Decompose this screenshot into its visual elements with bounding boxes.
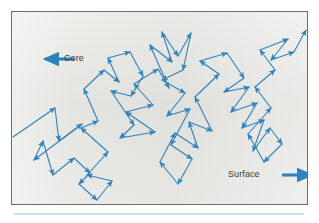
random-walk-diagram — [12, 12, 307, 204]
walk-segment — [195, 74, 219, 97]
walk-segment — [160, 133, 175, 162]
core-label: Core — [64, 53, 84, 64]
walk-segment — [126, 105, 153, 112]
walk-segment — [162, 32, 178, 56]
walk-segment — [13, 108, 55, 137]
walk-segment — [162, 80, 185, 93]
walk-segment — [55, 108, 59, 141]
walk-segment — [200, 53, 227, 61]
walk-segment — [255, 70, 275, 87]
walk-segment — [270, 128, 282, 144]
walk-segment — [162, 70, 183, 80]
walk-segment — [160, 162, 178, 184]
walk-segment — [134, 84, 153, 105]
walk-segment — [84, 70, 104, 89]
walk-segment — [227, 53, 244, 78]
walk-segment — [264, 144, 282, 162]
walk-segment — [134, 69, 158, 84]
walk-segment — [53, 158, 74, 175]
walk-segment — [242, 120, 264, 128]
bottom-divider-rule — [14, 213, 304, 215]
walk-segment — [97, 181, 112, 200]
walk-segment — [183, 33, 191, 70]
walk-segment — [231, 87, 249, 112]
walk-segment — [242, 103, 257, 128]
figure-root: Core Surface — [0, 0, 319, 223]
walk-segment — [294, 30, 306, 52]
walk-segment — [175, 133, 198, 148]
walk-segment — [87, 175, 112, 181]
walk-segment — [178, 159, 192, 184]
walk-segment — [87, 152, 108, 175]
walk-segment — [74, 158, 90, 173]
walk-segment — [108, 52, 130, 58]
walk-segment — [171, 145, 192, 159]
surface-label: Surface — [228, 169, 260, 180]
walk-segment — [84, 89, 98, 121]
walk-path-group — [13, 30, 306, 200]
walk-segment — [79, 184, 97, 200]
walk-segment — [150, 45, 169, 88]
walk-segment — [43, 141, 53, 175]
figure-panel: Core Surface — [11, 11, 308, 205]
walk-segment — [189, 122, 198, 148]
walk-segment — [81, 121, 98, 128]
walk-segment — [79, 173, 90, 184]
walk-segment — [260, 50, 275, 70]
walk-segment — [81, 128, 108, 152]
walk-segment — [167, 93, 185, 116]
walk-segment — [130, 52, 143, 76]
walk-segment — [108, 58, 119, 82]
walk-segment — [255, 87, 271, 108]
walk-segment — [248, 134, 264, 162]
walk-segment — [200, 61, 219, 74]
